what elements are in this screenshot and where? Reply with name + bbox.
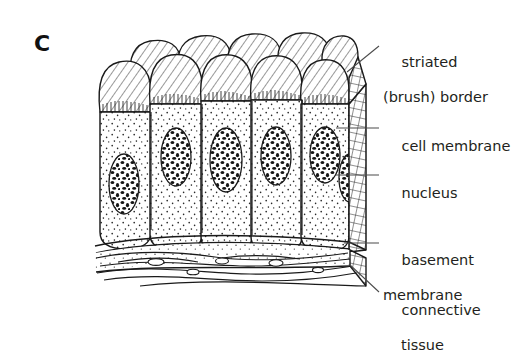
cut-face: [349, 57, 366, 252]
label-nucleus: nucleus: [383, 167, 457, 220]
label-connective-tissue: connective tissue: [383, 284, 481, 354]
panel-letter-c: C: [34, 33, 50, 55]
connective-tissue: [95, 243, 366, 286]
label-striated-border-line2: (brush) border: [383, 89, 488, 107]
label-connective-tissue-line1: connective: [401, 302, 480, 318]
label-connective-tissue-line2: tissue: [383, 337, 481, 354]
label-basement-membrane-line1: basement: [401, 252, 474, 268]
label-cell-membrane: cell membrane: [383, 120, 510, 173]
label-nucleus-line1: nucleus: [401, 185, 457, 201]
label-cell-membrane-line1: cell membrane: [401, 138, 510, 154]
label-striated-border-line1: striated: [401, 54, 457, 70]
